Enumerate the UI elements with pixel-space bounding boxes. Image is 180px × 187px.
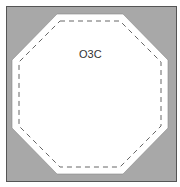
piece-label: O3C — [79, 48, 102, 60]
octagon-shape — [12, 14, 168, 174]
octagon-pattern-diagram — [0, 0, 180, 187]
